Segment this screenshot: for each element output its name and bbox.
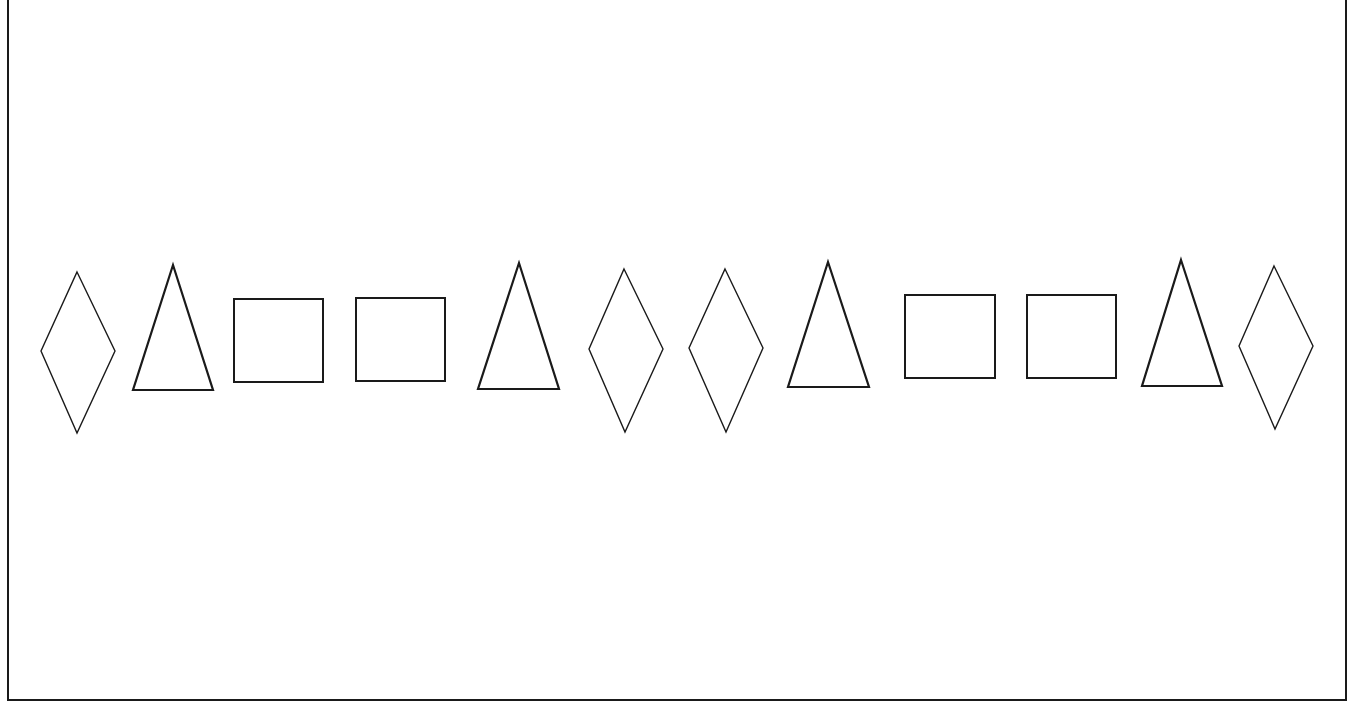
diamond-shape-6: [589, 269, 663, 432]
shape-sequence-figure: [0, 0, 1358, 711]
diamond-shape-12: [1239, 266, 1313, 429]
square-shape-3: [234, 299, 323, 382]
square-shape-9: [905, 295, 995, 378]
triangle-shape-8: [788, 262, 869, 387]
triangle-shape-5: [478, 263, 559, 389]
triangle-shape-2: [133, 265, 213, 390]
diamond-shape-7: [689, 269, 763, 432]
frame-border: [8, 0, 1346, 700]
diamond-shape-1: [41, 272, 115, 433]
triangle-shape-11: [1142, 260, 1222, 386]
square-shape-4: [356, 298, 445, 381]
square-shape-10: [1027, 295, 1116, 378]
shapes-row: [41, 260, 1313, 433]
